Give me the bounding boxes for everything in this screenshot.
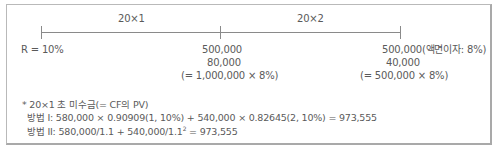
point1-interest-calc: (= 1,000,000 × 8%) <box>181 70 278 82</box>
timeline-tick-start <box>41 26 42 39</box>
method-2-formula: 방법 II: 580,000/1.1 + 540,000/1.12 = 973,… <box>27 126 238 138</box>
discount-rate-label: R = 10% <box>21 44 64 56</box>
method-1-formula: 방법 I: 580,000 × 0.90909(1, 10%) + 540,00… <box>27 112 377 124</box>
point2-interest-calc: (= 500,000 × 8%) <box>360 70 448 82</box>
timeline-tick-end <box>400 26 401 39</box>
point1-principal: 500,000 <box>202 44 242 56</box>
method-2-prefix: 방법 II: 580,000/1.1 + 540,000/1.1 <box>27 126 183 137</box>
timeline-axis <box>41 32 401 33</box>
method-2-suffix: = 973,555 <box>186 126 237 137</box>
point1-interest: 80,000 <box>207 57 241 69</box>
period-label-1: 20×1 <box>118 13 145 25</box>
timeline-tick-mid <box>220 26 221 39</box>
point2-principal: 500,000(액면이자: 8%) <box>382 44 486 56</box>
notes-heading: * 20×1 초 미수금(= CF의 PV) <box>22 99 148 111</box>
period-label-2: 20×2 <box>297 13 324 25</box>
point2-interest: 40,000 <box>386 57 420 69</box>
